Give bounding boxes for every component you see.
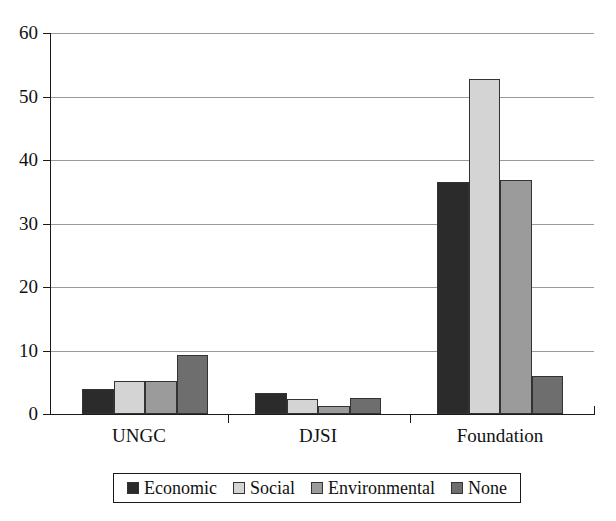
bar-djsi-social <box>287 399 319 414</box>
legend: EconomicSocialEnvironmentalNone <box>113 473 521 503</box>
y-tick-label-50: 50 <box>19 87 38 106</box>
bar-foundation-none <box>532 376 564 414</box>
legend-label-environmental: Environmental <box>328 479 435 497</box>
gridline-60 <box>50 33 594 34</box>
y-tick-mark-20 <box>43 287 51 288</box>
legend-item-none[interactable]: None <box>451 479 507 497</box>
legend-swatch-environmental-icon <box>311 482 323 494</box>
x-category-label-foundation: Foundation <box>430 425 570 447</box>
legend-label-economic: Economic <box>144 479 217 497</box>
legend-item-environmental[interactable]: Environmental <box>311 479 435 497</box>
plot-area <box>50 33 594 414</box>
y-tick-label-20: 20 <box>19 277 38 296</box>
bar-djsi-none <box>350 398 382 415</box>
y-tick-mark-0 <box>43 414 51 415</box>
bar-djsi-economic <box>255 393 287 414</box>
bar-chart: 0102030405060 UNGCDJSIFoundation Economi… <box>0 0 616 521</box>
x-category-label-ungc: UNGC <box>69 425 209 447</box>
bar-foundation-economic <box>437 182 469 414</box>
bar-ungc-economic <box>82 389 114 414</box>
x-axis-line <box>50 414 595 415</box>
legend-label-none: None <box>468 479 507 497</box>
gridline-50 <box>50 97 594 98</box>
x-axis-right-cap <box>594 406 595 415</box>
bar-foundation-social <box>469 79 501 414</box>
bar-ungc-social <box>114 381 146 414</box>
legend-swatch-social-icon <box>233 482 245 494</box>
bar-ungc-environmental <box>145 381 177 414</box>
y-tick-mark-10 <box>43 351 51 352</box>
y-tick-mark-30 <box>43 224 51 225</box>
bar-djsi-environmental <box>318 406 350 414</box>
legend-item-economic[interactable]: Economic <box>127 479 217 497</box>
y-tick-label-60: 60 <box>19 23 38 42</box>
legend-item-social[interactable]: Social <box>233 479 295 497</box>
legend-swatch-none-icon <box>451 482 463 494</box>
y-tick-mark-60 <box>43 33 51 34</box>
legend-swatch-economic-icon <box>127 482 139 494</box>
bar-foundation-environmental <box>500 180 532 414</box>
x-category-label-djsi: DJSI <box>248 425 388 447</box>
legend-label-social: Social <box>250 479 295 497</box>
x-tick-mark-1 <box>228 415 229 423</box>
y-tick-mark-50 <box>43 97 51 98</box>
x-tick-mark-2 <box>410 415 411 423</box>
y-tick-label-40: 40 <box>19 150 38 169</box>
y-tick-label-30: 30 <box>19 214 38 233</box>
y-tick-label-10: 10 <box>19 341 38 360</box>
gridline-40 <box>50 160 594 161</box>
y-tick-mark-40 <box>43 160 51 161</box>
bar-ungc-none <box>177 355 209 414</box>
y-tick-label-0: 0 <box>29 404 39 423</box>
